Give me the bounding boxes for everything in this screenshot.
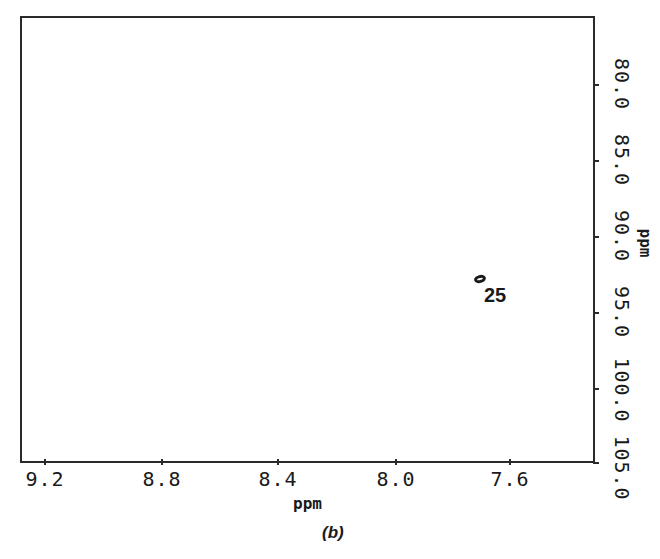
x-tick-label: 8.8 [132,467,192,491]
y-tick [593,160,599,162]
y-tick-label: 90.0 [610,210,634,262]
y-tick-label: 85.0 [610,134,634,186]
y-tick-label: 95.0 [610,286,634,338]
x-tick [277,459,279,465]
y-tick-label: 105.0 [610,435,634,500]
y-tick [593,312,599,314]
x-tick-label: 9.2 [15,467,75,491]
y-tick [593,462,599,464]
y-tick-label: 100.0 [610,357,634,422]
y-tick-label: 80.0 [610,58,634,110]
y-tick [593,388,599,390]
x-tick-label: 8.0 [366,467,426,491]
x-tick-label: 7.6 [480,467,540,491]
x-axis-title: ppm [293,494,322,513]
x-tick [44,459,46,465]
x-tick [395,459,397,465]
x-tick-label: 8.4 [248,467,308,491]
peak-label: 25 [484,284,506,307]
y-tick [593,84,599,86]
y-axis-title: ppm [636,229,655,258]
y-tick [593,236,599,238]
x-tick [161,459,163,465]
figure-caption: (b) [322,523,344,543]
plot-area [20,16,595,463]
x-tick [509,459,511,465]
